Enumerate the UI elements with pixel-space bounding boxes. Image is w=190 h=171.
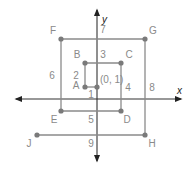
point-label-E: E [51, 114, 58, 125]
point-label-C: C [125, 49, 132, 60]
point-B [82, 60, 87, 65]
point-origin-start [94, 84, 99, 89]
segment-length-label: 9 [88, 138, 94, 149]
segment-length-label: 6 [49, 70, 55, 81]
point-J [34, 132, 39, 137]
point-label-F: F [50, 25, 56, 36]
point-label-J: J [27, 138, 32, 149]
point-D [118, 108, 123, 113]
point-F [58, 36, 63, 41]
point-C [118, 60, 123, 65]
segment-length-label: 5 [88, 114, 94, 125]
point-label-D: D [123, 114, 130, 125]
segment-length-label: 4 [125, 82, 131, 93]
x-axis-label: x [176, 85, 183, 96]
segment-length-label: 7 [100, 24, 106, 35]
segment-length-label: 8 [149, 82, 155, 93]
point-E [58, 108, 63, 113]
point-A [82, 84, 87, 89]
point-label-H: H [148, 138, 155, 149]
start-point-label: (0, 1) [100, 74, 123, 85]
point-label-B: B [74, 49, 81, 60]
segment-length-label: 1 [88, 89, 94, 100]
segment-length-label: 3 [100, 49, 106, 60]
point-G [142, 36, 147, 41]
point-H [142, 132, 147, 137]
point-label-A: A [73, 80, 80, 91]
spiral-diagram: x y 123456789ABCDEFGHJ(0, 1) [0, 0, 190, 171]
point-label-G: G [149, 25, 157, 36]
